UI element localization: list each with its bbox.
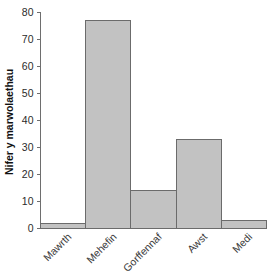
- y-axis-title-group: Nifer y marwolaethau: [3, 69, 15, 175]
- y-tick-label: 50: [22, 87, 34, 99]
- y-axis-ticks: 01020304050607080: [22, 6, 41, 234]
- chart-canvas: Nifer y marwolaethau 01020304050607080 M…: [0, 0, 272, 274]
- y-tick-label: 70: [22, 33, 34, 45]
- bar-group: [41, 21, 267, 229]
- bar: [221, 220, 266, 228]
- bar: [131, 191, 176, 229]
- y-tick-label: 40: [22, 114, 34, 126]
- bar-chart: Nifer y marwolaethau 01020304050607080 M…: [0, 0, 272, 274]
- bar: [176, 139, 221, 228]
- y-tick-label: 10: [22, 195, 34, 207]
- y-tick-label: 20: [22, 168, 34, 180]
- y-tick-label: 30: [22, 141, 34, 153]
- x-category-label: Awst: [185, 230, 209, 254]
- x-category-label: Gorffennaf: [120, 230, 163, 273]
- y-axis-title: Nifer y marwolaethau: [3, 69, 15, 175]
- y-tick-label: 80: [22, 6, 34, 18]
- x-category-label: Mehefin: [84, 230, 119, 265]
- y-tick-label: 0: [28, 222, 34, 234]
- x-category-label: Mawrth: [41, 230, 74, 263]
- y-tick-label: 60: [22, 60, 34, 72]
- x-axis-category-labels: MawrthMehefinGorffennafAwstMedi: [41, 230, 255, 274]
- bar: [86, 21, 131, 229]
- x-category-label: Medi: [230, 230, 255, 255]
- bar: [41, 223, 86, 228]
